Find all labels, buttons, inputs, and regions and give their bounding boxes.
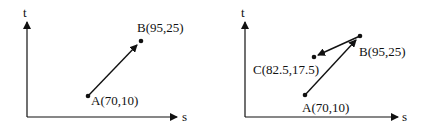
left-t-axis-label: t [23, 5, 27, 20]
right-diagram: t s A(70,10) B(95,25) C(82.5,17.5) [241, 5, 407, 124]
left-point-a-label: A(70,10) [91, 93, 138, 108]
left-s-axis-label: s [182, 109, 187, 124]
right-point-c [312, 55, 317, 60]
vector-diagrams: t s A(70,10) B(95,25) t s A(70,10) B(95,… [0, 0, 426, 129]
right-point-b [358, 34, 363, 39]
right-point-c-label: C(82.5,17.5) [253, 62, 319, 77]
right-point-a-label: A(70,10) [302, 100, 349, 115]
right-point-b-label: B(95,25) [359, 44, 406, 59]
right-point-a [303, 93, 308, 98]
left-vector-a-to-b [88, 45, 137, 96]
right-t-axis-label: t [241, 5, 245, 20]
left-point-b [139, 39, 144, 44]
left-diagram: t s A(70,10) B(95,25) [23, 5, 187, 124]
right-vector-b-to-c [318, 36, 360, 55]
left-point-b-label: B(95,25) [137, 20, 184, 35]
right-s-axis-label: s [402, 109, 407, 124]
left-point-a [86, 94, 91, 99]
